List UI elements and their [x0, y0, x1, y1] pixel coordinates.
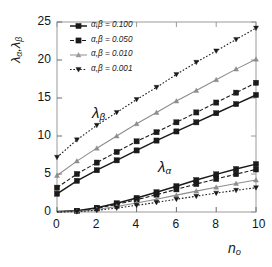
data-point-square — [76, 23, 81, 28]
data-point-triangle-down — [174, 72, 179, 77]
data-point-triangle-down — [134, 98, 139, 103]
annotation-lambda-alpha: λα — [158, 158, 171, 176]
data-point-square — [174, 129, 179, 134]
data-point-triangle-up — [214, 77, 219, 82]
y-axis-label-wrap: λα,λβ — [2, 18, 32, 88]
data-point-square — [214, 100, 219, 105]
data-point-triangle-down — [254, 186, 259, 191]
legend-entry-label[interactable]: α,β = 0.050 — [91, 35, 132, 44]
data-point-square — [253, 162, 258, 167]
legend-entry-label[interactable]: α,β = 0.001 — [91, 64, 132, 73]
data-point-square — [194, 181, 199, 186]
data-point-square — [214, 111, 219, 116]
y-axis-label-lambda-beta: λβ — [8, 37, 23, 48]
data-point-square — [234, 90, 239, 95]
x-axis-label: no — [228, 240, 241, 257]
legend[interactable] — [70, 23, 87, 72]
data-point-square — [234, 101, 239, 106]
data-point-square — [214, 176, 219, 181]
data-point-square — [194, 110, 199, 115]
series-line — [57, 59, 256, 175]
figure-container: λα,λβ no 02468100510152025 α,β = 0.100α,… — [0, 0, 272, 267]
x-axis-label-base: n — [228, 240, 236, 256]
data-point-triangle-up — [134, 121, 139, 126]
data-point-triangle-up — [114, 134, 119, 139]
data-point-square — [94, 160, 99, 165]
data-point-square — [54, 185, 59, 190]
series-lambda_beta — [54, 80, 258, 190]
data-point-square — [134, 139, 139, 144]
annotation-lambda-alpha-sub: α — [165, 165, 171, 176]
x-tick-label: 4 — [133, 217, 140, 231]
data-point-triangle-down — [174, 197, 179, 202]
data-point-triangle-down — [234, 188, 239, 193]
data-point-square — [234, 166, 239, 171]
x-axis-label-sub: o — [236, 247, 241, 257]
data-point-triangle-up — [74, 159, 79, 164]
annotation-lambda-beta: λβ — [92, 104, 105, 122]
data-point-square — [74, 178, 79, 183]
axis-ticks — [57, 22, 256, 212]
plot-frame — [57, 22, 256, 212]
data-series-group — [54, 26, 258, 214]
y-axis-label-lambda-alpha: λα — [8, 52, 23, 63]
y-tick-label: 0 — [44, 204, 51, 218]
data-point-triangle-up — [234, 67, 239, 72]
x-tick-label: 6 — [172, 217, 179, 231]
y-tick-label: 20 — [38, 52, 51, 66]
data-point-triangle-down — [214, 191, 219, 196]
x-tick-label: 8 — [212, 217, 219, 231]
annotation-lambda-beta-sub: β — [99, 111, 105, 122]
y-tick-label: 15 — [38, 90, 51, 104]
y-axis-label: λα,λβ — [8, 20, 24, 80]
data-point-square — [253, 80, 258, 85]
data-point-square — [76, 38, 81, 43]
data-point-triangle-down — [154, 200, 159, 205]
data-point-triangle-up — [174, 99, 179, 104]
data-point-square — [154, 138, 159, 143]
data-point-square — [194, 120, 199, 125]
data-point-square — [74, 171, 79, 176]
data-point-triangle-up — [194, 88, 199, 93]
data-point-triangle-down — [55, 155, 60, 160]
legend-entry-label[interactable]: α,β = 0.010 — [91, 49, 132, 58]
legend-entry-label[interactable]: α,β = 0.100 — [91, 20, 132, 29]
data-point-square — [114, 149, 119, 154]
data-point-square — [234, 172, 239, 177]
y-tick-label: 10 — [38, 128, 51, 142]
x-tick-label: 2 — [93, 217, 100, 231]
data-point-square — [94, 168, 99, 173]
data-point-triangle-down — [194, 194, 199, 199]
series-lambda_beta — [54, 92, 258, 196]
data-point-square — [253, 92, 258, 97]
plot-frame-rect — [57, 22, 256, 212]
data-point-triangle-down — [234, 37, 239, 42]
y-tick-label: 25 — [38, 14, 51, 28]
data-point-triangle-down — [154, 85, 159, 90]
data-point-square — [134, 148, 139, 153]
y-tick-label: 5 — [44, 166, 51, 180]
data-point-square — [253, 167, 258, 172]
y-axis-label-comma: , — [8, 48, 23, 52]
data-point-square — [114, 158, 119, 163]
series-lambda_beta — [55, 57, 259, 178]
data-point-triangle-up — [254, 57, 259, 62]
data-point-square — [54, 191, 59, 196]
data-point-triangle-up — [94, 146, 99, 151]
data-point-triangle-down — [194, 60, 199, 65]
x-tick-label: 0 — [53, 217, 60, 231]
x-tick-label: 10 — [252, 217, 265, 231]
data-point-triangle-up — [154, 110, 159, 115]
data-point-square — [154, 130, 159, 135]
data-point-triangle-down — [114, 110, 119, 115]
data-point-square — [174, 187, 179, 192]
data-point-square — [174, 120, 179, 125]
data-point-triangle-down — [214, 49, 219, 54]
data-point-triangle-down — [254, 26, 259, 31]
